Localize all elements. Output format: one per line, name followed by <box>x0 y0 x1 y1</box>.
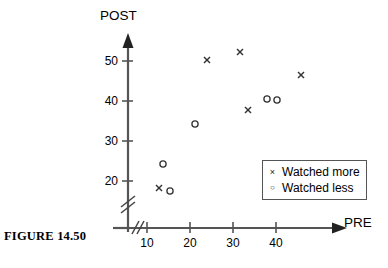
legend-item-watched-less: ○ Watched less <box>267 180 360 196</box>
figure-caption: FIGURE 14.50 <box>4 229 86 244</box>
cross-marker-icon: × <box>267 168 278 177</box>
axis-lines <box>123 33 348 234</box>
y-tick-label-40: 40 <box>105 94 118 108</box>
data-point-marker <box>274 97 280 103</box>
x-tick-label-20: 20 <box>183 236 196 250</box>
x-axis-title: PRE <box>344 215 372 230</box>
data-point-marker <box>156 185 162 191</box>
x-tick-label-40: 40 <box>269 236 282 250</box>
legend-label-watched-more: Watched more <box>282 166 360 178</box>
data-point-marker <box>160 161 166 167</box>
y-axis-title: POST <box>100 8 137 23</box>
data-point-marker <box>167 188 173 194</box>
y-tick-label-50: 50 <box>105 54 118 68</box>
legend: × Watched more ○ Watched less <box>262 160 367 200</box>
x-tick-label-30: 30 <box>226 236 239 250</box>
legend-label-watched-less: Watched less <box>282 182 354 194</box>
y-tick-label-20: 20 <box>105 174 118 188</box>
y-tick-label-30: 30 <box>105 134 118 148</box>
data-point-marker <box>204 57 210 63</box>
data-point-marker <box>245 107 251 113</box>
data-point-marker <box>264 96 270 102</box>
data-point-marker <box>192 121 198 127</box>
figure-container: POST PRE 50 40 30 20 10 20 30 40 × Watch… <box>0 0 388 268</box>
scatter-plot-canvas <box>0 0 388 268</box>
data-point-marker <box>237 49 243 55</box>
data-point-marker <box>298 72 304 78</box>
circle-marker-icon: ○ <box>267 184 278 192</box>
x-tick-label-10: 10 <box>140 236 153 250</box>
legend-item-watched-more: × Watched more <box>267 164 360 180</box>
